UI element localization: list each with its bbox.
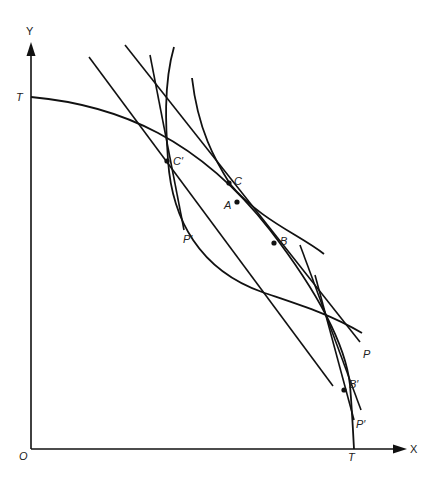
origin-label: O <box>19 450 28 462</box>
price-line-P-label: P <box>363 348 371 360</box>
indifference-curve-lower <box>166 47 362 333</box>
point-C-prime <box>164 158 169 163</box>
point-B-label: B <box>280 235 287 247</box>
point-A-label: A <box>223 199 231 211</box>
point-C <box>226 180 231 185</box>
point-B-prime-label: B′ <box>349 378 359 390</box>
price-line-P-prime-lower <box>315 275 354 420</box>
point-C-label: C <box>234 175 242 187</box>
price-line-P-parallel <box>89 57 333 386</box>
y-axis-arrow-icon <box>27 42 36 56</box>
price-line-P-prime-lower-label: P′ <box>356 418 366 430</box>
point-B-prime <box>341 387 346 392</box>
x-axis-arrow-icon <box>393 445 407 454</box>
ppf-diagram: Y X O T T P P′ P′ C′ C A B B′ <box>0 0 437 485</box>
price-line-P-prime-upper-label: P′ <box>183 233 193 245</box>
point-C-prime-label: C′ <box>173 155 184 167</box>
indifference-curve-upper <box>192 78 324 254</box>
frontier-x-intercept-label: T <box>348 451 356 463</box>
y-axis-label: Y <box>26 25 34 37</box>
point-A <box>234 199 239 204</box>
price-line-P <box>125 45 360 342</box>
point-B <box>271 240 276 245</box>
frontier-y-intercept-label: T <box>16 91 24 103</box>
x-axis-label: X <box>410 443 418 455</box>
